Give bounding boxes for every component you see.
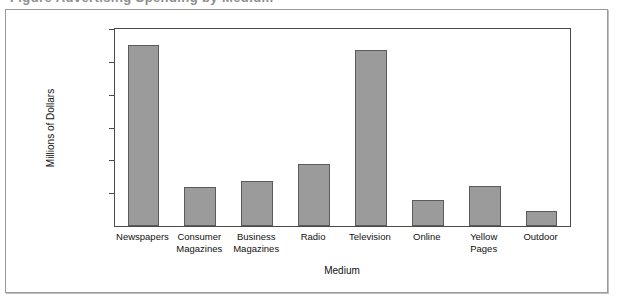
x-axis-tick-label: Television	[349, 231, 391, 243]
plot-area: 10,00020,00030,00040,00050,00060,000	[114, 28, 571, 227]
x-axis-tick-label: Outdoor	[523, 231, 557, 243]
y-axis-tick	[109, 29, 115, 30]
x-axis-tick-label: Newspapers	[116, 231, 169, 243]
bar[interactable]	[128, 45, 160, 226]
x-axis-tick-label: Radio	[301, 231, 326, 243]
bar[interactable]	[298, 164, 330, 226]
y-axis-tick	[109, 128, 115, 129]
bar[interactable]	[469, 186, 501, 226]
figure-caption-sliver: Figure Advertising Spending by Medium	[0, 0, 617, 7]
bar[interactable]	[412, 200, 444, 226]
y-axis-tick	[109, 193, 115, 194]
x-axis-tick-label: Yellow Pages	[470, 231, 497, 254]
figure-frame: Millions of Dollars 10,00020,00030,00040…	[5, 9, 608, 293]
x-axis-tick-label: Online	[413, 231, 440, 243]
y-axis-tick	[109, 95, 115, 96]
bar[interactable]	[241, 181, 273, 226]
bar[interactable]	[526, 211, 558, 226]
bar[interactable]	[184, 187, 216, 226]
y-axis-tick	[109, 160, 115, 161]
x-axis-tick-label: Consumer Magazines	[176, 231, 222, 254]
bar[interactable]	[355, 50, 387, 226]
y-axis-tick	[109, 62, 115, 63]
figure-caption-text: Figure Advertising Spending by Medium	[10, 0, 274, 5]
y-axis-title: Millions of Dollars	[45, 89, 56, 167]
x-axis-title: Medium	[324, 265, 360, 276]
x-axis-tick-label: Business Magazines	[233, 231, 279, 254]
